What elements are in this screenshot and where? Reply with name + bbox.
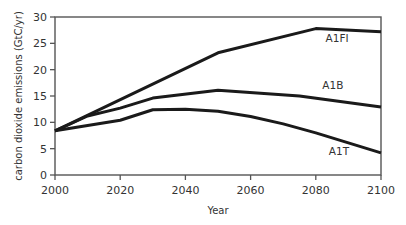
x-tick-label: 2060	[237, 184, 265, 197]
x-axis: 200020202040206020802100	[41, 175, 395, 197]
y-axis: 051015202530	[33, 11, 55, 182]
y-tick-label: 10	[33, 116, 47, 129]
y-tick-label: 25	[33, 37, 47, 50]
y-tick-label: 20	[33, 64, 47, 77]
x-axis-title: Year	[206, 205, 229, 216]
x-tick-label: 2100	[367, 184, 395, 197]
x-tick-label: 2080	[302, 184, 330, 197]
series-label-a1b: A1B	[322, 79, 343, 91]
y-axis-title: carbon dioxide emissions (GtC/yr)	[13, 11, 24, 181]
y-tick-label: 30	[33, 11, 47, 24]
y-tick-label: 0	[40, 169, 47, 182]
y-tick-label: 5	[40, 143, 47, 156]
line-chart: 051015202530 200020202040206020802100 A1…	[0, 0, 406, 225]
series-label-a1fi: A1FI	[326, 32, 349, 44]
x-tick-label: 2040	[171, 184, 199, 197]
x-tick-label: 2020	[106, 184, 134, 197]
series-label-a1t: A1T	[329, 145, 350, 157]
y-tick-label: 15	[33, 90, 47, 103]
x-tick-label: 2000	[41, 184, 69, 197]
